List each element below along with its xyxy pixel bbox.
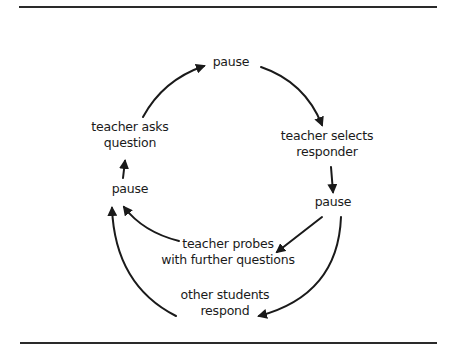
- node-label-line-1: teacher asks: [91, 119, 168, 135]
- node-teacher-selects-responder: teacher selects responder: [281, 128, 374, 160]
- node-label-line-2: question: [91, 135, 168, 151]
- node-pause-right: pause: [315, 194, 352, 210]
- node-label-line-2: responder: [281, 144, 374, 160]
- node-label: pause: [315, 194, 352, 210]
- arrow-pause-top-to-selects: [261, 67, 322, 125]
- node-label-line-1: teacher probes: [161, 236, 295, 252]
- node-label: pause: [213, 54, 250, 70]
- node-teacher-asks-question: teacher asks question: [91, 119, 168, 151]
- node-pause-left: pause: [112, 181, 149, 197]
- node-label-line-2: with further questions: [161, 252, 295, 268]
- node-label-line-1: other students: [181, 287, 270, 303]
- node-label-line-2: respond: [181, 303, 270, 319]
- node-pause-top: pause: [213, 54, 250, 70]
- arrow-pause-left-to-asks: [123, 161, 125, 178]
- arrow-asks-to-pause-top: [143, 66, 204, 117]
- arrow-selects-to-pause-right: [331, 167, 333, 192]
- node-other-students-respond: other students respond: [181, 287, 270, 319]
- node-label-line-1: teacher selects: [281, 128, 374, 144]
- node-label: pause: [112, 181, 149, 197]
- node-teacher-probes: teacher probes with further questions: [161, 236, 295, 268]
